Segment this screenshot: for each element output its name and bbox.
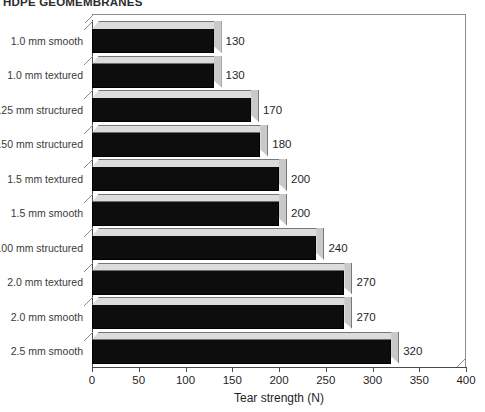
bar-base-corner-mark — [84, 297, 93, 306]
y-axis-category-label: 2.0 mm textured — [7, 276, 83, 288]
bar-front-face — [92, 63, 214, 88]
bar-side-face — [344, 263, 352, 295]
x-axis-tick-label: 100 — [176, 374, 195, 386]
bar-base-corner-mark — [84, 21, 93, 30]
y-axis-category-label: 1.25 mm structured — [0, 104, 83, 116]
x-axis-tick — [186, 367, 187, 372]
x-axis-tick-label: 250 — [316, 374, 335, 386]
x-axis-tick — [139, 367, 140, 372]
bar — [92, 56, 221, 81]
bar-front-face — [92, 201, 279, 226]
x-axis-tick-label: 400 — [456, 374, 475, 386]
plot-frame-top-edge — [92, 14, 466, 15]
x-axis-tick — [466, 367, 467, 372]
bar-base-corner-mark — [84, 90, 93, 99]
bar-front-face — [92, 97, 251, 122]
bar-front-face — [92, 339, 391, 364]
bar — [92, 228, 323, 253]
bar-value-label: 200 — [291, 207, 310, 219]
bar — [92, 125, 267, 150]
x-axis-tick — [92, 367, 93, 372]
bar — [92, 194, 286, 219]
bar-value-label: 270 — [356, 311, 375, 323]
bar — [92, 159, 286, 184]
bar — [92, 90, 258, 115]
bar-front-face — [92, 166, 279, 191]
y-axis-category-label: 1.0 mm textured — [7, 69, 83, 81]
x-axis-tick — [326, 367, 327, 372]
bar-top-face — [92, 159, 286, 167]
bar-side-face — [391, 332, 399, 364]
y-axis-category-label: 1.0 mm smooth — [11, 35, 83, 47]
x-axis-tick — [232, 367, 233, 372]
bar-value-label: 270 — [356, 276, 375, 288]
x-axis-tick — [373, 367, 374, 372]
bar-value-label: 170 — [263, 104, 282, 116]
bar-value-label: 180 — [272, 138, 291, 150]
bar-side-face — [344, 297, 352, 329]
bar-front-face — [92, 28, 214, 53]
bar — [92, 332, 398, 357]
bar-side-face — [260, 125, 268, 157]
x-axis-title: Tear strength (N) — [92, 391, 466, 405]
bar-base-corner-mark — [84, 194, 93, 203]
bar-base-corner-mark — [84, 332, 93, 341]
y-axis-category-label: 1.5 mm smooth — [11, 207, 83, 219]
y-axis-category-label: 2.5 mm smooth — [11, 345, 83, 357]
x-axis-tick-label: 200 — [269, 374, 288, 386]
bar — [92, 21, 221, 46]
y-axis-category-label: 2.0 mm smooth — [11, 311, 83, 323]
bar — [92, 263, 351, 288]
y-axis-category-label: 2.00 mm structured — [0, 242, 83, 254]
bar-side-face — [279, 194, 287, 226]
x-axis-tick — [279, 367, 280, 372]
bar-value-label: 240 — [328, 242, 347, 254]
plot-frame-right-edge — [465, 14, 466, 367]
bar-top-face — [92, 332, 398, 340]
bar-side-face — [214, 21, 222, 53]
bar-front-face — [92, 235, 316, 260]
bar-top-face — [92, 228, 323, 236]
bar-front-face — [92, 132, 260, 157]
bar-top-face — [92, 90, 258, 98]
x-axis-tick-label: 350 — [410, 374, 429, 386]
y-axis-category-label: 1.50 mm structured — [0, 138, 83, 150]
bar-base-corner-mark — [84, 159, 93, 168]
bar-top-face — [92, 125, 267, 133]
bar-base-corner-mark — [84, 228, 93, 237]
bar-top-face — [92, 21, 221, 29]
bar-top-face — [92, 263, 351, 271]
bar-top-face — [92, 297, 351, 305]
bar-base-corner-mark — [84, 263, 93, 272]
bar-side-face — [279, 159, 287, 191]
bar-side-face — [251, 90, 259, 122]
x-axis-tick-label: 150 — [223, 374, 242, 386]
bar-side-face — [316, 228, 324, 260]
bar-value-label: 130 — [226, 69, 245, 81]
x-axis-tick-label: 0 — [89, 374, 95, 386]
bar-value-label: 320 — [403, 345, 422, 357]
bar-base-corner-mark — [84, 56, 93, 65]
x-axis-tick-label: 50 — [132, 374, 145, 386]
bar-front-face — [92, 304, 344, 329]
bar-value-label: 130 — [226, 35, 245, 47]
plot-area: 050100150200250300350400 1.0 mm smooth1.… — [0, 0, 485, 412]
x-axis-tick — [419, 367, 420, 372]
bar-top-face — [92, 56, 221, 64]
bar-top-face — [92, 194, 286, 202]
bar-value-label: 200 — [291, 173, 310, 185]
bar-front-face — [92, 270, 344, 295]
bar-base-corner-mark — [84, 125, 93, 134]
bar-side-face — [214, 56, 222, 88]
bar — [92, 297, 351, 322]
y-axis-category-label: 1.5 mm textured — [7, 173, 83, 185]
x-axis-tick-label: 300 — [363, 374, 382, 386]
